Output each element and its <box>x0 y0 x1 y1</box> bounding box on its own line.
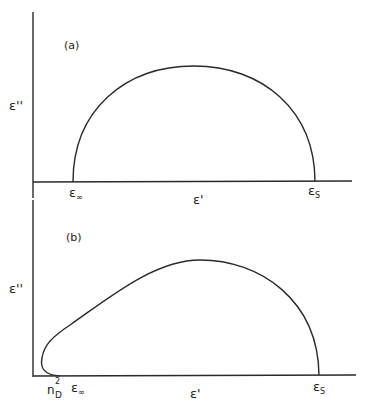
panel-b-eps-static-label: εS <box>313 380 325 396</box>
panel-a-x-axis <box>33 181 352 182</box>
panel-b-n-d-squared-label: n 2 D <box>47 378 63 402</box>
panel-b-label: (b) <box>66 232 82 243</box>
panel-b-eps-infinity-label: ε∞ <box>71 381 85 397</box>
panel-a-eps-infinity-label: ε∞ <box>69 186 83 202</box>
panel-a-label: (a) <box>64 40 79 51</box>
panel-a-x-axis-label: ε' <box>193 193 204 206</box>
panel-b-skewed-arc <box>42 260 319 376</box>
panel-a-semicircle <box>73 66 315 182</box>
panel-a-eps-static-label: εS <box>308 184 320 200</box>
panel-b-x-axis-label: ε' <box>190 387 201 400</box>
panel-b-x-axis <box>33 375 356 376</box>
panel-b-y-axis-label: ε'' <box>9 282 23 295</box>
panel-a-y-axis-label: ε'' <box>9 99 23 112</box>
dielectric-diagram <box>0 0 366 406</box>
